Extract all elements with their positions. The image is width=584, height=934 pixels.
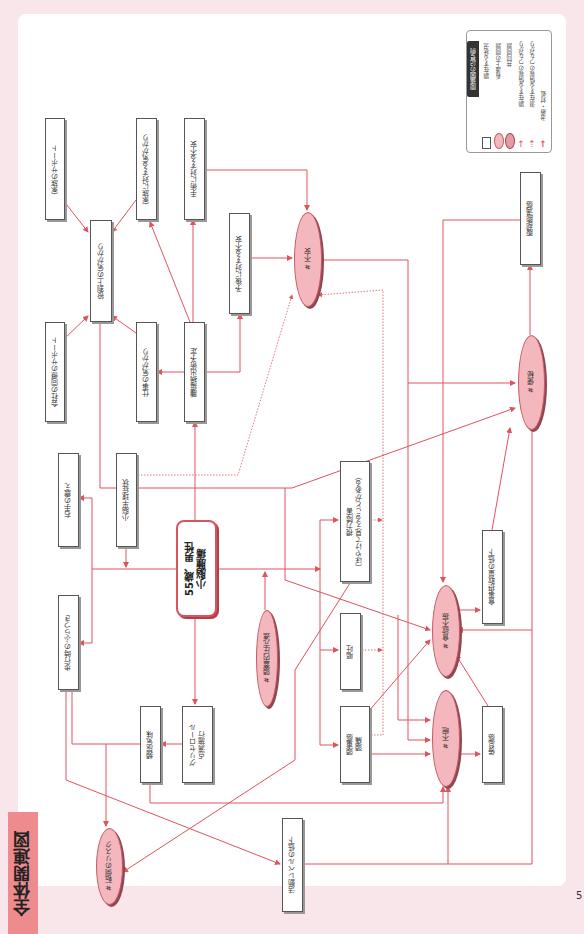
legend: 関連図の記号例 顕在する状況 看護上の問題 共同問題 ↑ 顕在する情報のつながり… xyxy=(466,30,552,153)
legend-item-treatment-arrow: ↑ 治療・対処 xyxy=(538,91,548,149)
node-glycerol-infusion: グリセロール点滴施行 xyxy=(182,706,213,783)
legend-item-rectangle: 顕在する状況 xyxy=(481,101,491,149)
node-urinary-urgency: 頻尿気味 xyxy=(140,706,161,783)
node-gait-unsteadiness: 歩行時のふらつき xyxy=(58,595,79,690)
node-visual-impairment: 視力障害（ぼやけて見えることがある） xyxy=(340,461,370,582)
problem-intracranial-pressure: # 頭蓋内圧亢進 xyxy=(256,610,278,707)
node-family-support: 家族のサポート xyxy=(45,118,65,220)
node-abdominal-distension: 腹部膨満感 xyxy=(520,172,541,265)
legend-item-ellipse-dark: 共同問題 xyxy=(504,101,514,149)
node-coworker-support: 会社の同僚のサポート xyxy=(45,322,65,422)
rectangle-icon xyxy=(482,137,491,149)
node-prognosis-anxiety: 予後に対する不安 xyxy=(229,213,250,314)
node-vomiting: 嘔吐 xyxy=(340,613,361,690)
node-surgery-planned: 腫瘍摘出術予定 xyxy=(184,322,205,422)
node-role-worry: 役割上の気がかり xyxy=(90,220,112,322)
node-food-intake-decrease: 食事摂取量の低下 xyxy=(482,530,503,624)
problem-anorexia: # 食欲不振 xyxy=(432,585,460,677)
node-work-worry: 仕事の気がかり xyxy=(136,322,157,422)
dotted-arrow-icon: ⇡ xyxy=(528,139,536,149)
node-surgery-anxiety: 手術に対する不安 xyxy=(184,118,205,220)
section-title-tag: 全体関連図 xyxy=(8,812,38,934)
node-cerebellar-symptoms: 小脳半球症状 xyxy=(116,453,137,547)
legend-item-ellipse: 看護上の問題 xyxy=(493,101,503,149)
thick-arrow-icon: ↑ xyxy=(539,139,547,149)
legend-title: 関連図の記号例 xyxy=(467,41,479,97)
solid-arrow-icon: ↑ xyxy=(517,139,525,149)
ellipse-dark-icon xyxy=(505,133,515,149)
node-family-worry: 家族に対する気がかり xyxy=(136,118,157,220)
legend-item-dotted-arrow: ⇡ 潜在する情報のつながり xyxy=(527,41,537,149)
node-fatigue: 倦怠感 xyxy=(482,706,503,783)
node-right-hand-tremor: 右手の震え xyxy=(58,453,79,547)
node-headache: 頭重感頭痛 xyxy=(340,706,370,783)
problem-insomnia: # 不眠 xyxy=(432,690,460,787)
ellipse-icon xyxy=(494,133,504,149)
legend-item-solid-arrow: ↑ 顕在する情報のつながり xyxy=(516,41,526,149)
problem-anxiety: # 不安 xyxy=(294,212,322,307)
problem-constipation: # 便秘 xyxy=(518,335,545,430)
node-activity-decrease: 活動レベルの低下 xyxy=(282,818,303,912)
page-number: 5 xyxy=(576,890,582,901)
problem-fall-risk: # 転倒のリスク xyxy=(96,828,123,905)
patient-center-node: 55歳、男性小脳腫瘍 xyxy=(176,520,217,617)
